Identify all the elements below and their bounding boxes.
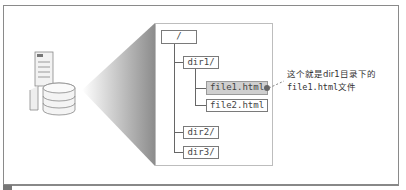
- tree-node-dir2: dir2/: [183, 126, 219, 139]
- tree-node-file1-highlighted: file1.html: [206, 81, 268, 95]
- tree-branch-file1: [195, 88, 206, 89]
- tree-branch-dir2: [174, 132, 183, 133]
- tree-line-root: [174, 43, 175, 153]
- annotation-line-2: file1.html文件: [287, 80, 356, 92]
- tree-line-dir1: [195, 68, 196, 106]
- tree-node-root: /: [161, 30, 197, 44]
- annotation-leader-line: [268, 78, 288, 90]
- tree-node-dir1: dir1/: [183, 56, 219, 69]
- tree-branch-dir1: [174, 62, 183, 63]
- server-with-database-icon: [26, 50, 82, 116]
- tree-node-file2: file2.html: [206, 99, 268, 112]
- tree-node-dir3: dir3/: [183, 146, 219, 159]
- annotation-line-1: 这个就是dir1目录下的: [287, 67, 376, 79]
- tree-branch-file2: [195, 105, 206, 106]
- tree-branch-dir3: [174, 152, 183, 153]
